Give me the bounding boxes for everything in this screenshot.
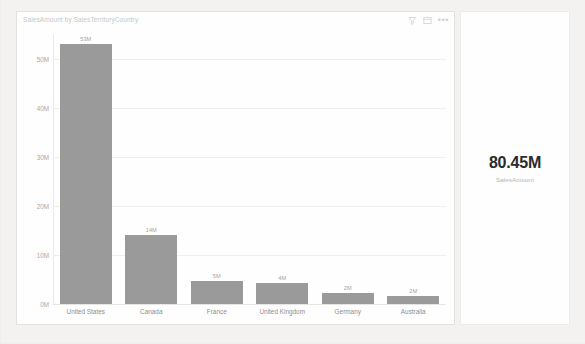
y-axis: 0M 10M 20M 30M 40M 50M bbox=[21, 34, 51, 304]
bar-item[interactable]: 14M bbox=[119, 34, 185, 304]
bar-australia[interactable] bbox=[387, 296, 439, 304]
y-tick-label: 10M bbox=[37, 252, 49, 259]
x-tick-label-canada: Canada bbox=[119, 308, 185, 324]
visual-header: SalesAmount by SalesTerritoryCountry ••• bbox=[17, 12, 454, 34]
bar-data-label: 14M bbox=[146, 227, 157, 233]
bar-united-kingdom[interactable] bbox=[256, 283, 308, 304]
bar-chart-visual[interactable]: SalesAmount by SalesTerritoryCountry ••• bbox=[16, 11, 455, 325]
bar-item[interactable]: 2M bbox=[315, 34, 381, 304]
x-tick-label-australia: Australia bbox=[381, 308, 447, 324]
chart-title: SalesAmount by SalesTerritoryCountry bbox=[23, 16, 138, 23]
x-axis: United States Canada France United Kingd… bbox=[53, 308, 446, 324]
filter-icon[interactable] bbox=[408, 16, 417, 25]
bar-canada[interactable] bbox=[125, 235, 177, 304]
x-tick-label-united-states: United States bbox=[53, 308, 119, 324]
bar-item[interactable]: 5M bbox=[184, 34, 250, 304]
bar-germany[interactable] bbox=[322, 293, 374, 304]
bar-data-label: 53M bbox=[80, 36, 91, 42]
gridlines-and-bars: 53M 14M 5M 4M bbox=[53, 34, 446, 304]
gridline-baseline bbox=[53, 304, 446, 305]
kpi-card-visual[interactable]: 80.45M SalesAmount bbox=[460, 11, 570, 325]
bar-series: 53M 14M 5M 4M bbox=[53, 34, 446, 304]
visual-header-actions: ••• bbox=[408, 16, 449, 25]
report-canvas: SalesAmount by SalesTerritoryCountry ••• bbox=[0, 0, 585, 344]
bar-data-label: 5M bbox=[213, 273, 221, 279]
kpi-label: SalesAmount bbox=[496, 176, 534, 183]
bar-data-label: 2M bbox=[409, 288, 417, 294]
bar-item[interactable]: 4M bbox=[250, 34, 316, 304]
bar-france[interactable] bbox=[191, 281, 243, 304]
bar-data-label: 2M bbox=[344, 285, 352, 291]
x-tick-label-germany: Germany bbox=[315, 308, 381, 324]
kpi-value: 80.45M bbox=[489, 154, 541, 172]
bar-item[interactable]: 53M bbox=[53, 34, 119, 304]
y-tick-label: 30M bbox=[37, 154, 49, 161]
x-tick-label-france: France bbox=[184, 308, 250, 324]
plot-area: 0M 10M 20M 30M 40M 50M 53M bbox=[17, 34, 454, 324]
y-tick-label: 40M bbox=[37, 105, 49, 112]
x-tick-label-united-kingdom: United Kingdom bbox=[250, 308, 316, 324]
bar-data-label: 4M bbox=[278, 275, 286, 281]
more-options-icon[interactable]: ••• bbox=[438, 18, 449, 23]
y-tick-label: 50M bbox=[37, 56, 49, 63]
focus-mode-icon[interactable] bbox=[423, 16, 432, 25]
y-tick-label: 20M bbox=[37, 203, 49, 210]
bar-item[interactable]: 2M bbox=[381, 34, 447, 304]
y-tick-label: 0M bbox=[40, 301, 49, 308]
bar-united-states[interactable] bbox=[60, 44, 112, 304]
